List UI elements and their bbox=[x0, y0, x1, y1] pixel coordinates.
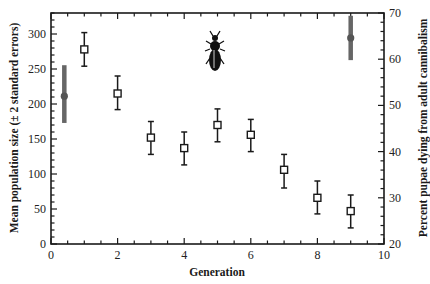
data-point bbox=[347, 208, 354, 215]
y-right-tick-label: 70 bbox=[389, 6, 401, 20]
y-right-tick-label: 60 bbox=[389, 52, 401, 66]
data-point bbox=[281, 166, 288, 173]
data-point bbox=[214, 122, 221, 129]
cannibalism-series bbox=[61, 16, 355, 123]
beetle-icon bbox=[205, 31, 225, 71]
y-right-tick-label: 40 bbox=[389, 145, 401, 159]
y-tick-label: 150 bbox=[28, 132, 46, 146]
y-tick-label: 200 bbox=[28, 97, 46, 111]
x-tick-label: 8 bbox=[314, 248, 320, 262]
left-axis-ticks: 050100150200250300 bbox=[28, 13, 57, 251]
y-tick-label: 100 bbox=[28, 167, 46, 181]
x-axis-title: Generation bbox=[189, 266, 245, 278]
y-tick-label: 50 bbox=[34, 202, 46, 216]
data-point bbox=[147, 134, 154, 141]
x-tick-label: 10 bbox=[378, 248, 390, 262]
x-tick-label: 2 bbox=[115, 248, 121, 262]
chart-figure: 050100150200250300 203040506070 0246810 … bbox=[0, 0, 430, 284]
y-tick-label: 300 bbox=[28, 27, 46, 41]
x-tick-label: 0 bbox=[48, 248, 54, 262]
y-right-tick-label: 30 bbox=[389, 191, 401, 205]
data-point bbox=[314, 194, 321, 201]
y-right-tick-label: 50 bbox=[389, 98, 401, 112]
data-point bbox=[347, 34, 354, 41]
y-tick-label: 0 bbox=[40, 237, 46, 251]
y-tick-label: 250 bbox=[28, 62, 46, 76]
y-axis-title: Mean population size (± 2 standard error… bbox=[8, 23, 21, 234]
y-axis-right-title: Percent pupae dying from adult cannibali… bbox=[417, 18, 430, 237]
x-tick-label: 4 bbox=[181, 248, 187, 262]
right-axis-ticks: 203040506070 bbox=[378, 6, 401, 251]
data-point bbox=[114, 90, 121, 97]
y-right-tick-label: 20 bbox=[389, 237, 401, 251]
data-point bbox=[61, 93, 68, 100]
x-tick-label: 6 bbox=[248, 248, 254, 262]
top-axis-ticks bbox=[51, 13, 384, 19]
data-point bbox=[181, 145, 188, 152]
data-point bbox=[81, 46, 88, 53]
data-point bbox=[247, 131, 254, 138]
x-axis-ticks: 0246810 bbox=[48, 238, 390, 262]
